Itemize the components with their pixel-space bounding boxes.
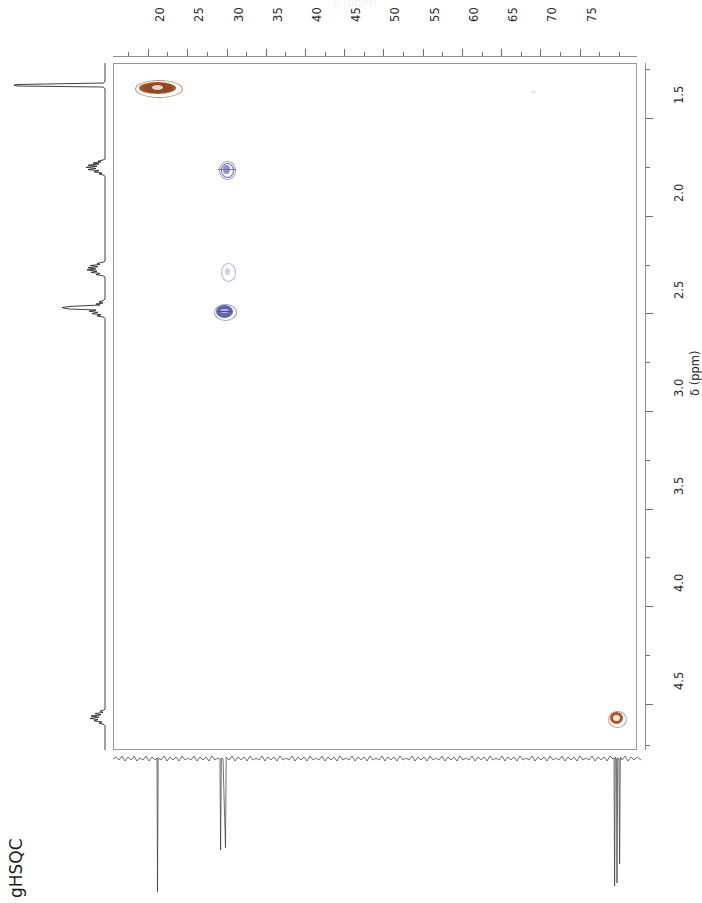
f2-tick-major <box>646 216 653 217</box>
f1-tick-major <box>423 49 424 56</box>
f1-tick-major <box>148 49 149 56</box>
f2-tick-major <box>646 118 653 119</box>
experiment-label: gHSQC <box>6 838 26 898</box>
f1-tick-label: 70 <box>545 7 559 22</box>
f2-tick-minor <box>646 557 650 558</box>
f1-tick-minor <box>246 52 247 56</box>
f2-tick-label: 1.5 <box>672 86 686 104</box>
f1-tick-label: 35 <box>271 7 285 22</box>
f1-tick-label: 30 <box>232 7 246 22</box>
cross-peak-ch2-2p37[interactable] <box>221 263 235 281</box>
f1-tick-minor <box>207 52 208 56</box>
f2-tick-minor <box>646 167 650 168</box>
f1-tick-major <box>540 49 541 56</box>
cross-peak-ch2-1p80[interactable] <box>218 160 236 180</box>
f2-tick-minor <box>646 745 650 746</box>
f1-tick-major <box>187 49 188 56</box>
f2-tick-major <box>646 509 653 510</box>
cross-peak-core <box>152 85 163 90</box>
f1-tick-label: 55 <box>428 7 442 22</box>
f2-tick-major <box>646 313 653 314</box>
f1-tick-label: 25 <box>192 7 206 22</box>
experiment-label-text: gHSQC <box>6 838 26 898</box>
f2-tick-label: 4.0 <box>672 574 686 592</box>
cross-peak-ch3[interactable] <box>135 75 181 101</box>
f1-projection-trace <box>113 752 641 903</box>
f1-tick-major <box>227 49 228 56</box>
cross-peak-split-line <box>218 311 231 312</box>
f1-tick-minor <box>167 52 168 56</box>
f1-tick-label: 40 <box>310 7 324 22</box>
f1-tick-major <box>501 49 502 56</box>
f1-tick-minor <box>325 52 326 56</box>
f1-tick-major <box>383 49 384 56</box>
f2-tick-minor <box>646 655 650 656</box>
f1-tick-minor <box>599 52 600 56</box>
f2-tick-minor <box>646 362 650 363</box>
f2-tick-label: 2.0 <box>672 184 686 202</box>
f1-tick-minor <box>364 52 365 56</box>
cross-peak-ch2-2p55[interactable] <box>214 302 236 322</box>
f2-tick-label: 2.5 <box>672 281 686 299</box>
f1-tick-minor <box>560 52 561 56</box>
f1-tick-label: 45 <box>349 7 363 22</box>
f1-tick-minor <box>285 52 286 56</box>
f1-tick-minor <box>521 52 522 56</box>
f1-tick-minor <box>619 52 620 56</box>
cross-peak-och[interactable] <box>608 710 626 728</box>
f2-tick-label: 4.5 <box>672 672 686 690</box>
f1-tick-major <box>266 49 267 56</box>
f1-tick-minor <box>482 52 483 56</box>
f1-tick-label: 60 <box>467 7 481 22</box>
f2-tick-major <box>646 411 653 412</box>
cross-peak-core <box>225 268 230 275</box>
f1-tick-major <box>305 49 306 56</box>
f2-axis-title: δ (ppm) <box>688 351 702 396</box>
f2-tick-major <box>646 704 653 705</box>
f2-tick-minor <box>646 265 650 266</box>
spectrum-plot-area[interactable] <box>113 63 637 750</box>
f1-tick-minor <box>442 52 443 56</box>
f1-tick-minor <box>403 52 404 56</box>
f2-tick-minor <box>646 69 650 70</box>
artifact-speck <box>531 90 536 94</box>
f2-tick-minor <box>646 460 650 461</box>
f2-axis-title-text: δ (ppm) <box>688 351 702 396</box>
f1-tick-label: 50 <box>388 7 402 22</box>
cross-peak-core <box>613 715 620 721</box>
f2-tick-label: 3.5 <box>672 477 686 495</box>
f1-tick-minor <box>128 52 129 56</box>
f1-axis-line <box>113 56 637 57</box>
f1-tick-label: 75 <box>585 7 599 22</box>
f2-projection-trace <box>0 63 112 750</box>
f2-tick-major <box>646 606 653 607</box>
f1-tick-major <box>580 49 581 56</box>
f1-tick-major <box>344 49 345 56</box>
f1-tick-label: 65 <box>506 7 520 22</box>
cross-peak-split-line <box>218 169 236 170</box>
f1-tick-major <box>462 49 463 56</box>
f1-tick-label: 20 <box>153 7 167 22</box>
f2-tick-label: 3.0 <box>672 379 686 397</box>
